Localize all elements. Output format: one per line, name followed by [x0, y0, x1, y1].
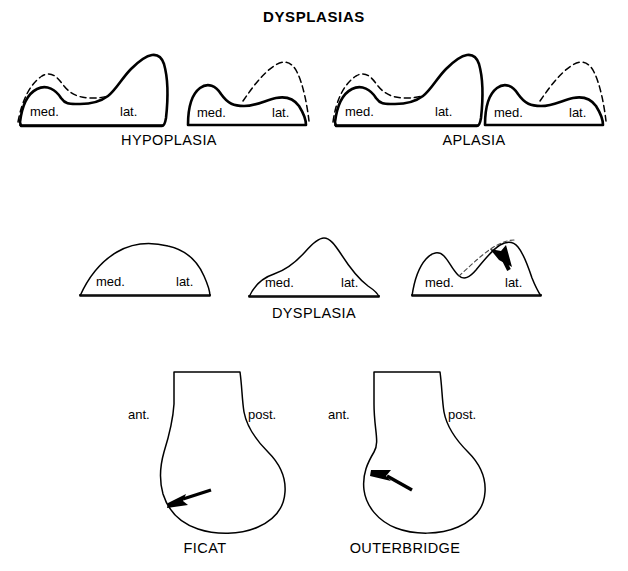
dysplasias-figure: DYSPLASIAS med. lat. med. lat. med. lat.	[0, 0, 628, 571]
shape-dysplasia-3: med. lat.	[411, 240, 542, 296]
medial-label: med.	[30, 104, 59, 119]
medial-label: med.	[96, 274, 125, 289]
shape-name-ficat: FICAT	[184, 540, 227, 556]
medial-label: med.	[345, 104, 374, 119]
anterior-label: ant.	[128, 407, 150, 422]
lateral-label: lat.	[505, 275, 522, 290]
group-label-hypoplasia: HYPOPLASIA	[121, 132, 217, 148]
shape-aplasia-1: med. lat.	[333, 55, 482, 126]
anterior-label: ant.	[328, 407, 350, 422]
upper-row: med. lat. med. lat. med. lat. med. lat.	[18, 55, 606, 148]
middle-row: med. lat. med. lat. med. lat. DYSPLASIA	[79, 238, 542, 321]
lateral-label: lat.	[435, 104, 452, 119]
shape-aplasia-2: med. lat.	[484, 62, 606, 125]
shape-ficat: ant. post. FICAT	[128, 372, 285, 556]
lateral-label: lat.	[341, 275, 358, 290]
posterior-label: post.	[248, 407, 276, 422]
lateral-label: lat.	[176, 274, 193, 289]
condyle-outline	[160, 372, 285, 533]
condyle-outline	[364, 372, 485, 533]
lower-row: ant. post. FICAT ant. post. OUTERBRIDGE	[128, 372, 485, 556]
medial-label: med.	[265, 275, 294, 290]
posterior-label: post.	[448, 407, 476, 422]
shape-dysplasia-2: med. lat.	[248, 238, 380, 297]
shape-hypoplasia-2: med. lat.	[187, 62, 309, 125]
group-label-aplasia: APLASIA	[442, 132, 505, 148]
shape-name-outerbridge: OUTERBRIDGE	[350, 540, 461, 556]
lateral-label: lat.	[569, 105, 586, 120]
shape-outerbridge: ant. post. OUTERBRIDGE	[328, 372, 485, 556]
lateral-label: lat.	[272, 105, 289, 120]
medial-label: med.	[494, 105, 523, 120]
figure-canvas: DYSPLASIAS med. lat. med. lat. med. lat.	[0, 0, 628, 571]
lateral-label: lat.	[120, 104, 137, 119]
group-label-dysplasia: DYSPLASIA	[272, 305, 356, 321]
shape-dysplasia-1: med. lat.	[79, 244, 211, 296]
shape-hypoplasia-1: med. lat.	[18, 55, 167, 126]
medial-label: med.	[425, 275, 454, 290]
medial-label: med.	[197, 105, 226, 120]
figure-title: DYSPLASIAS	[263, 8, 365, 25]
